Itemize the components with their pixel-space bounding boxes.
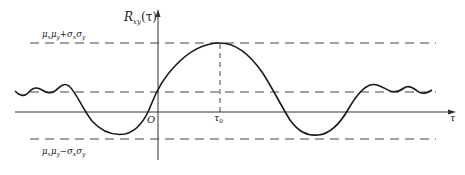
x-axis-label: τ [450, 112, 456, 123]
peak-tau-label: τ0 [214, 112, 223, 124]
correlation-curve [15, 43, 432, 135]
upper-bound-label: μxμy+σxσy [42, 29, 86, 41]
correlation-diagram: Rxy(τ) μxμy+σxσy μxμy−σxσy O τ0 τ [0, 0, 465, 175]
origin-label: O [147, 114, 155, 125]
lower-bound-label: μxμy−σxσy [42, 146, 86, 158]
y-axis-label: Rxy(τ) [123, 10, 157, 26]
